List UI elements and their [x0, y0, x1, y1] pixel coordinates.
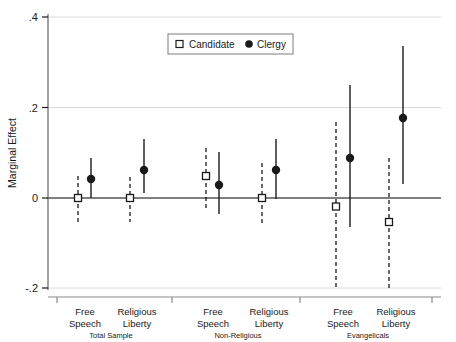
group-label-evangelicals: Evangelicals [347, 331, 389, 340]
marker-candidate-total-religious-liberty [127, 195, 134, 202]
y-tick-label-0p2: .2 [29, 102, 38, 114]
marker-clergy-nonreligious-free-speech [215, 181, 223, 189]
y-tick-label-0p4: .4 [29, 11, 38, 23]
x-label-total-free-speech-line1: Free [75, 306, 95, 317]
legend-marker-clergy [245, 40, 253, 48]
marker-clergy-total-free-speech [87, 175, 95, 183]
marker-candidate-evangelicals-religious-liberty [386, 219, 393, 226]
marker-candidate-nonreligious-free-speech [203, 173, 210, 180]
group-label-total-sample: Total Sample [89, 331, 132, 340]
legend-label-clergy: Clergy [257, 39, 286, 50]
marker-clergy-total-religious-liberty [140, 166, 148, 174]
y-tick-label-0: 0 [32, 192, 38, 204]
y-axis-title: Marginal Effect [6, 118, 18, 188]
x-label-evangelicals-religious-liberty-line2: Liberty [382, 318, 411, 329]
marker-candidate-nonreligious-religious-liberty [259, 195, 266, 202]
x-label-evangelicals-free-speech-line2: Speech [327, 318, 359, 329]
x-label-total-religious-liberty-line2: Liberty [123, 318, 152, 329]
marker-clergy-evangelicals-free-speech [346, 154, 354, 162]
marker-clergy-nonreligious-religious-liberty [272, 166, 280, 174]
marker-candidate-evangelicals-free-speech [333, 203, 340, 210]
marginal-effect-coefficient-plot: .4 .2 0 -.2 Marginal Effect [0, 0, 456, 342]
x-label-evangelicals-free-speech-line1: Free [333, 306, 353, 317]
legend-marker-candidate [176, 41, 183, 48]
x-label-nonreligious-religious-liberty-line2: Liberty [255, 318, 284, 329]
y-tick-label-neg0p2: -.2 [25, 282, 38, 294]
x-label-nonreligious-free-speech-line2: Speech [197, 318, 229, 329]
x-label-nonreligious-free-speech-line1: Free [203, 306, 223, 317]
legend-label-candidate: Candidate [189, 39, 235, 50]
marker-candidate-total-free-speech [75, 195, 82, 202]
x-label-evangelicals-religious-liberty-line1: Religious [376, 306, 415, 317]
marker-clergy-evangelicals-religious-liberty [399, 114, 407, 122]
x-label-total-religious-liberty-line1: Religious [117, 306, 156, 317]
x-label-nonreligious-religious-liberty-line1: Religious [249, 306, 288, 317]
group-label-non-religious: Non-Religious [214, 331, 261, 340]
x-label-total-free-speech-line2: Speech [69, 318, 101, 329]
legend: Candidate Clergy [168, 34, 293, 54]
